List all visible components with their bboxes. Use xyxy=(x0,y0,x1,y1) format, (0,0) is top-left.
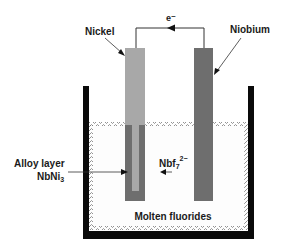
nickel-label: Nickel xyxy=(85,26,115,37)
alloy-formula-subscript: 3 xyxy=(60,176,64,183)
niobium-electrode xyxy=(194,48,213,201)
melt-bottom-texture xyxy=(89,226,248,230)
alloy-formula-label: NbNi3 xyxy=(37,171,64,183)
electron-flow-arrow xyxy=(167,25,175,32)
circuit-wire xyxy=(136,28,204,48)
electron-label: e⁻ xyxy=(166,13,176,23)
niobium-pointer-line xyxy=(217,38,241,71)
niobium-label: Niobium xyxy=(230,24,270,35)
container-bottom xyxy=(83,231,254,239)
electrochemical-cell-diagram: e⁻ Nickel Niobium Alloy layer NbNi3 Nbf7… xyxy=(0,0,282,251)
melt-right-texture xyxy=(244,125,248,228)
melt-left-texture xyxy=(89,125,93,228)
nickel-core xyxy=(132,125,139,191)
ion-subscript: 7 xyxy=(176,163,180,170)
alloy-formula-base: NbNi xyxy=(37,171,61,182)
melt-surface-texture xyxy=(89,122,248,126)
ion-base: Nbf xyxy=(159,158,176,169)
nickel-pointer-line xyxy=(105,38,122,53)
container-left-wall xyxy=(83,86,89,238)
molten-fluorides-label: Molten fluorides xyxy=(134,211,212,222)
niobium-pointer-arrowhead xyxy=(214,68,220,75)
ion-superscript: 2− xyxy=(180,155,188,162)
container-right-wall xyxy=(248,86,254,238)
alloy-layer-label: Alloy layer xyxy=(14,158,65,169)
nickel-electrode xyxy=(125,48,145,125)
